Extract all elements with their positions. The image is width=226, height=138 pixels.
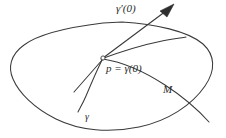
tangent-line-back bbox=[74, 59, 103, 92]
point-p-marker bbox=[101, 56, 105, 60]
tangent-vector-label: γ′(0) bbox=[116, 3, 136, 14]
curve-gamma bbox=[78, 58, 103, 112]
manifold-label: M bbox=[163, 84, 172, 95]
curve-label: γ bbox=[85, 112, 89, 122]
base-point-label: p = γ(0) bbox=[106, 63, 142, 74]
arrowhead-icon bbox=[160, 4, 174, 17]
surface-fold-curve bbox=[101, 37, 186, 59]
tangent-vector-arrow bbox=[103, 11, 166, 58]
manifold-outline bbox=[11, 22, 213, 130]
tangent-vector-figure: γ′(0) p = γ(0) M γ bbox=[0, 0, 226, 138]
